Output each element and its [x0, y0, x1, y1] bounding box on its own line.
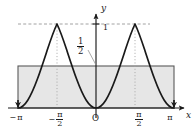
- x-tick-label-neg-pi: − π: [8, 114, 24, 122]
- half-denominator: 2: [77, 47, 84, 56]
- math-figure-sin-squared: y x O 1 1 2 − π − π 2 π 2: [0, 0, 196, 135]
- neg-half-pi-denominator: 2: [56, 120, 63, 129]
- neg-pi-sign: −: [10, 114, 17, 122]
- y-tick-label-one: 1: [103, 24, 108, 32]
- pos-pi-symbol: π: [167, 114, 172, 122]
- neg-half-pi-sign: −: [49, 116, 56, 124]
- half-leader-line: [88, 50, 96, 65]
- x-axis-label: x: [186, 111, 191, 120]
- y-axis-label: y: [101, 4, 106, 13]
- half-value-label: 1 2: [77, 37, 84, 56]
- x-tick-label-neg-half-pi: − π 2: [44, 111, 68, 129]
- x-tick-label-pos-half-pi: π 2: [128, 111, 150, 129]
- neg-pi-symbol: π: [17, 114, 22, 122]
- x-tick-label-pos-pi: π: [163, 114, 177, 122]
- origin-label: O: [92, 114, 99, 123]
- pos-half-pi-denominator: 2: [135, 120, 142, 129]
